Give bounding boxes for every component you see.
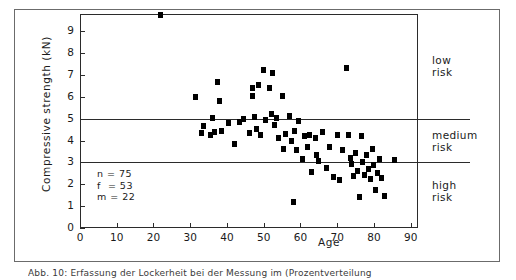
scatter-point: [346, 132, 351, 138]
scatter-point: [370, 146, 375, 152]
scatter-point: [327, 144, 332, 150]
scatter-point: [368, 176, 373, 182]
x-tick-label: 50: [253, 231, 275, 243]
scatter-point: [280, 93, 285, 99]
scatter-point: [283, 131, 288, 137]
risk-divider: [418, 119, 470, 120]
y-tick-mark: [80, 75, 85, 76]
y-tick-label: 9: [58, 24, 74, 36]
scatter-point: [276, 135, 281, 141]
annotation-line-f: f = 53: [97, 180, 135, 192]
scatter-point: [331, 174, 336, 180]
x-tick-label: 40: [216, 231, 238, 243]
scatter-point: [305, 144, 310, 150]
scatter-point: [287, 113, 292, 119]
scatter-point: [294, 147, 299, 153]
scatter-point: [379, 175, 384, 181]
y-tick-label: 4: [58, 134, 74, 146]
scatter-point: [241, 116, 246, 122]
x-tick-label: 70: [326, 231, 348, 243]
y-tick-label: 3: [58, 155, 74, 167]
scatter-point: [364, 152, 369, 158]
scatter-point: [355, 168, 360, 174]
scatter-point: [219, 128, 224, 134]
scatter-point: [377, 156, 382, 162]
x-tick-label: 80: [363, 231, 385, 243]
annotation-line-m: m = 22: [97, 191, 135, 203]
scatter-point: [296, 118, 301, 124]
x-tick-mark: [264, 223, 265, 228]
x-tick-label: 20: [142, 231, 164, 243]
risk-band-label-line1: medium: [432, 129, 478, 141]
scatter-point: [272, 122, 277, 128]
y-tick-label: 6: [58, 90, 74, 102]
scatter-point: [291, 199, 296, 205]
scatter-point: [158, 12, 163, 18]
scatter-point: [314, 152, 319, 158]
y-tick-label: 8: [58, 46, 74, 58]
scatter-point: [215, 79, 220, 85]
y-tick-mark: [80, 141, 85, 142]
scatter-point: [252, 114, 257, 120]
scatter-point: [360, 159, 365, 165]
x-tick-mark: [374, 223, 375, 228]
scatter-point: [289, 138, 294, 144]
x-tick-mark: [337, 223, 338, 228]
scatter-point: [258, 132, 263, 138]
scatter-point: [320, 129, 325, 135]
scatter-point: [250, 85, 255, 91]
x-tick-mark: [411, 223, 412, 228]
y-tick-mark: [80, 53, 85, 54]
x-tick-label: 60: [289, 231, 311, 243]
x-tick-label: 10: [106, 231, 128, 243]
figure-container: Compressive strength (kN) Age 0123456789…: [0, 0, 516, 280]
scatter-point: [292, 128, 297, 134]
scatter-point: [382, 193, 387, 199]
risk-band-label-line2: risk: [432, 141, 478, 153]
x-tick-mark: [153, 223, 154, 228]
x-tick-label: 30: [179, 231, 201, 243]
y-tick-label: 5: [58, 112, 74, 124]
scatter-point: [337, 177, 342, 183]
scatter-point: [212, 129, 217, 135]
y-tick-mark: [80, 184, 85, 185]
threshold-line: [80, 119, 418, 120]
scatter-point: [199, 130, 204, 136]
threshold-line: [80, 162, 418, 163]
scatter-point: [256, 82, 261, 88]
scatter-point: [309, 169, 314, 175]
scatter-point: [373, 187, 378, 193]
scatter-point: [226, 120, 231, 126]
scatter-point: [193, 94, 198, 100]
risk-band-label-line2: risk: [432, 66, 452, 78]
y-tick-mark: [80, 206, 85, 207]
scatter-point: [254, 126, 259, 132]
scatter-point: [201, 123, 206, 129]
scatter-point: [307, 132, 312, 138]
scatter-point: [344, 65, 349, 71]
risk-band-label: highrisk: [432, 179, 457, 203]
y-axis-title: Compressive strength (kN): [40, 4, 52, 224]
scatter-point: [392, 157, 397, 163]
figure-caption: Abb. 10: Erfassung der Lockerheit bei de…: [28, 268, 498, 278]
x-tick-mark: [227, 223, 228, 228]
scatter-point: [362, 172, 367, 178]
y-tick-mark: [80, 31, 85, 32]
scatter-point: [274, 115, 279, 121]
scatter-point: [340, 147, 345, 153]
scatter-point: [217, 98, 222, 104]
scatter-point: [261, 67, 266, 73]
y-tick-label: 7: [58, 68, 74, 80]
sample-size-annotation: n = 75 f = 53 m = 22: [97, 168, 135, 203]
risk-band-label: lowrisk: [432, 54, 452, 78]
scatter-point: [357, 194, 362, 200]
x-tick-label: 0: [69, 231, 91, 243]
x-tick-mark: [117, 223, 118, 228]
scatter-point: [316, 158, 321, 164]
scatter-point: [371, 162, 376, 168]
annotation-line-n: n = 75: [97, 168, 135, 180]
y-tick-mark: [80, 97, 85, 98]
scatter-point: [210, 115, 215, 121]
scatter-point: [335, 132, 340, 138]
y-tick-label: 1: [58, 199, 74, 211]
